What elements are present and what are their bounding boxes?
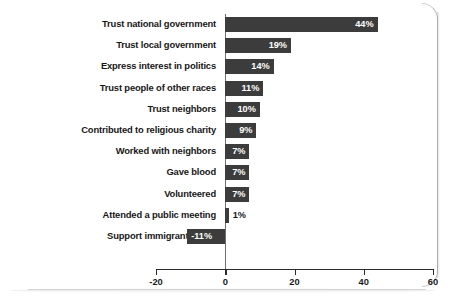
bar-value-label: 19% [268, 38, 287, 53]
horizontal-bar-chart: Trust national government44%Trust local … [0, 0, 460, 301]
category-label: Volunteered [0, 188, 216, 200]
x-tick-label: 60 [428, 277, 438, 287]
category-label: Support immigrant rights [0, 230, 216, 242]
category-label: Trust people of other races [0, 82, 216, 94]
bar-value-label: 44% [355, 17, 374, 32]
bar-value-label: 7% [226, 187, 245, 202]
category-label: Trust neighbors [0, 103, 216, 115]
bar-row: Attended a public meeting1% [0, 205, 460, 226]
bar-value-label: 1% [233, 208, 246, 223]
x-tick-label: -20 [149, 277, 162, 287]
bar-row: Gave blood7% [0, 162, 460, 183]
x-tick-label: 40 [359, 277, 369, 287]
bar-row: Contributed to religious charity9% [0, 120, 460, 141]
x-tick-label: 0 [223, 277, 228, 287]
bar-value-label: 14% [251, 59, 270, 74]
category-label: Gave blood [0, 166, 216, 178]
figure-frame: Trust national government44%Trust local … [0, 0, 460, 301]
category-label: Worked with neighbors [0, 145, 216, 157]
x-tick-label: 20 [289, 277, 299, 287]
bar-row: Volunteered7% [0, 184, 460, 205]
bar-value-label: 9% [233, 123, 252, 138]
bar-value-label: 10% [237, 102, 256, 117]
category-label: Trust local government [0, 39, 216, 51]
bar-row: Trust national government44% [0, 14, 460, 35]
category-label: Trust national government [0, 18, 216, 30]
category-label: Express interest in politics [0, 60, 216, 72]
bar-value-label: -11% [191, 229, 212, 244]
bar-value-label: 7% [226, 144, 245, 159]
bar-row: Express interest in politics14% [0, 56, 460, 77]
x-tick-mark [433, 269, 434, 275]
x-tick-mark [225, 269, 226, 275]
bar-value-label: 7% [226, 165, 245, 180]
bar-row: Trust local government19% [0, 35, 460, 56]
x-tick-mark [156, 269, 157, 275]
bar-row: Support immigrant rights-11% [0, 226, 460, 247]
category-label: Attended a public meeting [0, 209, 216, 221]
x-tick-mark [364, 269, 365, 275]
bar-value-label: 11% [240, 81, 259, 96]
bar[interactable] [225, 208, 228, 223]
bar-row: Worked with neighbors7% [0, 141, 460, 162]
bar-row: Trust people of other races11% [0, 78, 460, 99]
category-label: Contributed to religious charity [0, 124, 216, 136]
x-tick-mark [295, 269, 296, 275]
bar-row: Trust neighbors10% [0, 99, 460, 120]
